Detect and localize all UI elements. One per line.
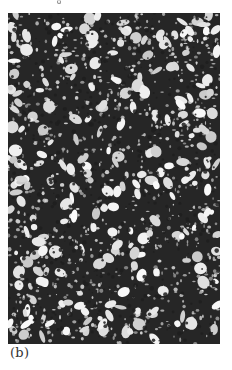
micrograph-image bbox=[8, 13, 220, 344]
micrograph-texture bbox=[8, 13, 220, 344]
panel-label: (b) bbox=[10, 345, 29, 360]
cropped-text-fragment bbox=[54, 0, 64, 4]
